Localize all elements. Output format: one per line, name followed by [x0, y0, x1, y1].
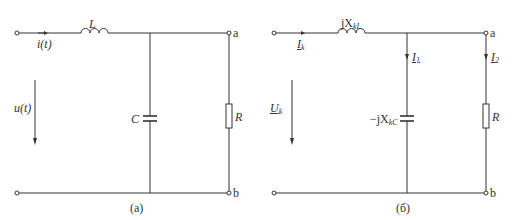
voltage-arrow-icon [290, 138, 294, 145]
terminal-a [227, 31, 231, 35]
terminal-a [484, 31, 488, 35]
circuit-a [15, 29, 232, 196]
resistor [226, 104, 232, 128]
terminal-a-label: a [233, 27, 238, 39]
branch1-current-label: I1 [412, 51, 420, 65]
terminal-a-label: a [490, 27, 495, 39]
input-terminal-top [15, 31, 19, 35]
caption-b: (б) [396, 202, 410, 214]
caption-a: (a) [130, 202, 143, 214]
capacitor-label: −jXkC [370, 113, 398, 127]
resistor-label: R [492, 111, 499, 123]
inductor-label: L [89, 18, 96, 30]
terminal-b [227, 191, 231, 195]
inductor-label: jXkL [341, 17, 361, 31]
current-arrow-icon [44, 31, 48, 35]
terminal-b [484, 191, 488, 195]
branch2-current-label: I2 [491, 51, 499, 65]
voltage-label: u(t) [14, 102, 31, 114]
terminal-b-label: b [233, 187, 239, 199]
branch1-current-arrow-icon [405, 54, 409, 60]
branch2-current-arrow-icon [484, 54, 488, 60]
resistor-label: R [235, 111, 242, 123]
terminal-b-label: b [490, 187, 496, 199]
current-label: i(t) [37, 38, 52, 50]
resistor [483, 104, 489, 128]
current-label: Ik [297, 38, 305, 52]
voltage-label: Uk [270, 102, 282, 116]
input-terminal-bottom [15, 191, 19, 195]
capacitor-label: C [131, 113, 139, 125]
input-terminal-bottom [272, 191, 276, 195]
current-arrow-icon [301, 31, 305, 35]
input-terminal-top [272, 31, 276, 35]
voltage-arrow-icon [33, 138, 37, 145]
circuit-diagrams [0, 0, 514, 220]
